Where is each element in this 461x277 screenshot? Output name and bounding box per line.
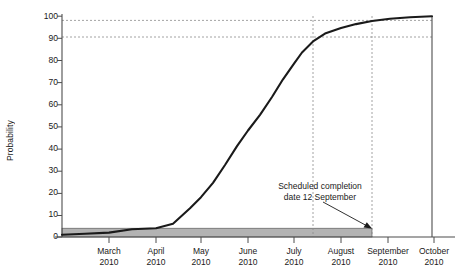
x-tick-label-october: October 2010 (419, 246, 449, 267)
annotation-line-1: Scheduled completion (278, 181, 362, 191)
probability-s-curve-chart: Probability 100 90 80 70 60 50 40 30 20 … (0, 0, 461, 277)
x-axis-ticks (109, 237, 434, 243)
x-tick-label-may: May 2010 (192, 246, 211, 267)
x-tick-month-march: March (97, 246, 121, 256)
x-tick-month-september: September (367, 246, 409, 256)
x-tick-year-august: 2010 (328, 257, 354, 268)
annotation-arrow-head (364, 222, 373, 228)
x-tick-month-may: May (193, 246, 209, 256)
annotation-arrow-line (323, 202, 369, 227)
x-tick-month-october: October (419, 246, 449, 256)
x-tick-month-june: June (239, 246, 257, 256)
annotation-line-2: date 12 September (284, 192, 356, 202)
x-tick-label-april: April 2010 (147, 246, 166, 267)
scheduled-completion-annotation: Scheduled completion date 12 September (278, 181, 362, 202)
x-tick-label-july: July 2010 (285, 246, 304, 267)
x-tick-month-april: April (147, 246, 164, 256)
x-tick-year-october: 2010 (419, 257, 449, 268)
x-tick-label-august: August 2010 (328, 246, 354, 267)
x-tick-year-july: 2010 (285, 257, 304, 268)
chart-canvas (0, 0, 461, 277)
x-tick-year-may: 2010 (192, 257, 211, 268)
x-tick-label-june: June 2010 (239, 246, 258, 267)
x-tick-year-june: 2010 (239, 257, 258, 268)
y-axis-ticks (57, 16, 62, 237)
x-tick-month-july: July (286, 246, 301, 256)
x-tick-year-september: 2010 (367, 257, 409, 268)
x-tick-label-september: September 2010 (367, 246, 409, 267)
x-tick-label-march: March 2010 (97, 246, 121, 267)
x-tick-month-august: August (328, 246, 354, 256)
probability-curve (62, 16, 432, 235)
x-tick-year-april: 2010 (147, 257, 166, 268)
x-tick-year-march: 2010 (97, 257, 121, 268)
